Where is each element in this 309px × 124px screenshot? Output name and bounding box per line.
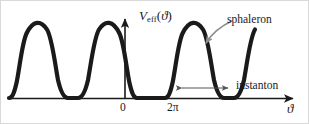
x-tick-label-0: 0 <box>120 102 126 114</box>
effective-potential-curve <box>9 23 255 98</box>
sphaleron-annotation-label: sphaleron <box>227 14 272 26</box>
instanton-annotation-label: instanton <box>236 80 278 92</box>
y-axis-label: Veff(ϑ) <box>139 9 172 24</box>
x-tick-label-2pi: 2π <box>167 102 179 114</box>
potential-diagram-figure: Veff(ϑ) ϑ 0 2π sphaleron instanton <box>0 0 309 124</box>
y-axis-subscript: eff <box>147 14 157 24</box>
y-axis-symbol: V <box>139 8 147 23</box>
x-axis-label: ϑ <box>287 102 293 115</box>
